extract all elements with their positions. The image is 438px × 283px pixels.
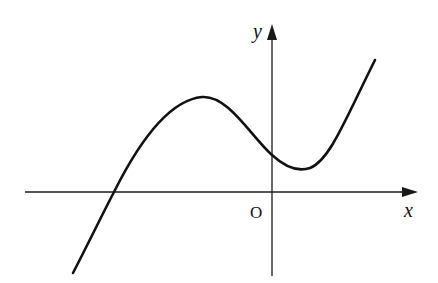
x-axis: [25, 187, 418, 197]
origin-label: O: [250, 203, 262, 222]
cubic-curve: [73, 60, 375, 273]
y-axis-label: y: [251, 20, 262, 43]
x-axis-label: x: [403, 199, 413, 221]
x-axis-arrow-icon: [402, 187, 418, 197]
function-graph: y O x: [0, 0, 438, 283]
y-axis-arrow-icon: [267, 24, 277, 40]
